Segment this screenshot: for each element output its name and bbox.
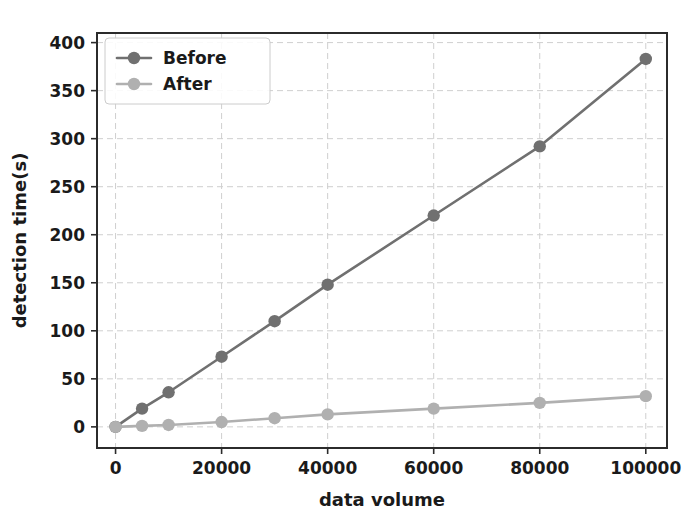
legend-marker-before xyxy=(128,52,140,64)
data-point-marker xyxy=(136,420,148,432)
y-tick-label: 350 xyxy=(50,81,86,101)
data-point-marker xyxy=(162,419,174,431)
legend-label-after[interactable]: After xyxy=(163,74,212,94)
data-point-marker xyxy=(215,416,227,428)
data-point-marker xyxy=(162,386,174,398)
x-tick-label: 0 xyxy=(110,458,122,478)
y-tick-label: 400 xyxy=(50,33,86,53)
data-point-marker xyxy=(534,140,546,152)
data-point-marker xyxy=(321,408,333,420)
data-point-marker xyxy=(268,412,280,424)
y-axis-title: detection time(s) xyxy=(9,153,30,329)
x-tick-label: 80000 xyxy=(510,458,569,478)
x-tick-label: 60000 xyxy=(404,458,463,478)
y-tick-label: 200 xyxy=(50,225,86,245)
data-point-marker xyxy=(427,209,439,221)
chart-figure: 020000400006000080000100000 050100150200… xyxy=(0,0,700,526)
chart-legend[interactable]: BeforeAfter xyxy=(105,38,270,104)
y-tick-label: 0 xyxy=(73,417,85,437)
x-tick-label: 40000 xyxy=(298,458,357,478)
y-tick-label: 50 xyxy=(61,369,85,389)
x-tick-label: 20000 xyxy=(192,458,251,478)
y-tick-label: 150 xyxy=(50,273,86,293)
data-point-marker xyxy=(321,278,333,290)
data-point-marker xyxy=(268,315,280,327)
x-axis-title: data volume xyxy=(319,489,445,510)
line-chart: 020000400006000080000100000 050100150200… xyxy=(0,0,700,526)
legend-label-before[interactable]: Before xyxy=(163,48,226,68)
data-point-marker xyxy=(534,397,546,409)
y-tick-label: 100 xyxy=(50,321,86,341)
y-tick-label: 250 xyxy=(50,177,86,197)
data-point-marker xyxy=(640,53,652,65)
data-point-marker xyxy=(136,402,148,414)
data-point-marker xyxy=(109,421,121,433)
legend-marker-after xyxy=(128,78,140,90)
y-tick-label: 300 xyxy=(50,129,86,149)
data-point-marker xyxy=(427,402,439,414)
data-point-marker xyxy=(215,351,227,363)
x-tick-label: 100000 xyxy=(610,458,681,478)
data-point-marker xyxy=(640,390,652,402)
